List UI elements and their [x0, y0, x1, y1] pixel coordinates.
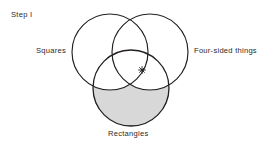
set-label-squares: Squares — [36, 47, 66, 55]
venn-diagram-svg — [0, 0, 280, 147]
venn-diagram-figure: Step I Squares Four-sided things Rectang… — [0, 0, 280, 147]
set-label-four-sided-things: Four-sided things — [194, 47, 257, 55]
step-label: Step I — [11, 11, 32, 19]
set-label-rectangles: Rectangles — [108, 130, 149, 138]
asterisk-marker-icon — [139, 67, 146, 74]
